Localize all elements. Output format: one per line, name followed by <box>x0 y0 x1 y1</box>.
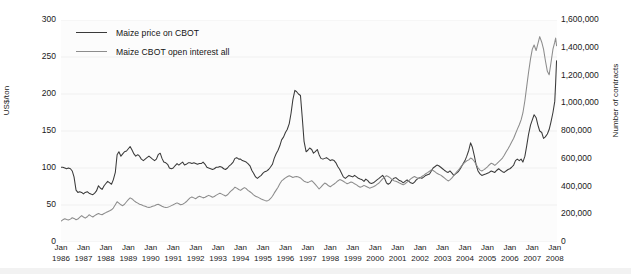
y-axis-left-tick-label: 300 <box>12 15 56 24</box>
y-axis-right-tick-label: 1,200,000 <box>561 71 599 80</box>
series-line-2 <box>61 37 557 222</box>
y-axis-left-title: US$/ton <box>2 51 11 151</box>
y-axis-right-tick-label: 400,000 <box>561 182 592 191</box>
y-axis-left-tick-label: 200 <box>12 89 56 98</box>
y-axis-right-tick-label: 800,000 <box>561 126 592 135</box>
y-axis-right-tick-label: 200,000 <box>561 209 592 218</box>
y-axis-right-title: Number of contracts <box>611 51 620 151</box>
y-axis-right-tick-label: 1,600,000 <box>561 15 599 24</box>
legend-label: Maize price on CBOT <box>116 28 199 38</box>
legend-label: Maize CBOT open interest all <box>116 47 230 57</box>
x-axis-ticks: Jan1986Jan1987Jan1988Jan1989Jan1990Jan19… <box>61 243 557 269</box>
y-axis-left-tick-label: 250 <box>12 52 56 61</box>
chart-container: US$/ton Number of contracts 050100150200… <box>0 0 631 274</box>
chart-legend: Maize price on CBOTMaize CBOT open inter… <box>76 23 230 61</box>
y-axis-left-tick-label: 100 <box>12 163 56 172</box>
x-tick-year: 2008 <box>538 254 572 265</box>
legend-item-2: Maize CBOT open interest all <box>76 42 230 61</box>
bottom-divider <box>0 268 631 274</box>
series-line-1 <box>61 61 557 195</box>
legend-line-swatch <box>76 51 107 52</box>
y-axis-right-tick-label: 1,000,000 <box>561 98 599 107</box>
x-tick-month: Jan <box>538 243 572 254</box>
x-axis-tick-label: Jan2008 <box>538 243 572 264</box>
legend-item-1: Maize price on CBOT <box>76 23 230 42</box>
y-axis-right-tick-label: 1,400,000 <box>561 43 599 52</box>
y-axis-left-tick-label: 50 <box>12 200 56 209</box>
data-series <box>61 37 557 222</box>
y-axis-right-tick-label: 600,000 <box>561 154 592 163</box>
y-axis-left-tick-label: 150 <box>12 126 56 135</box>
legend-line-swatch <box>76 32 107 33</box>
